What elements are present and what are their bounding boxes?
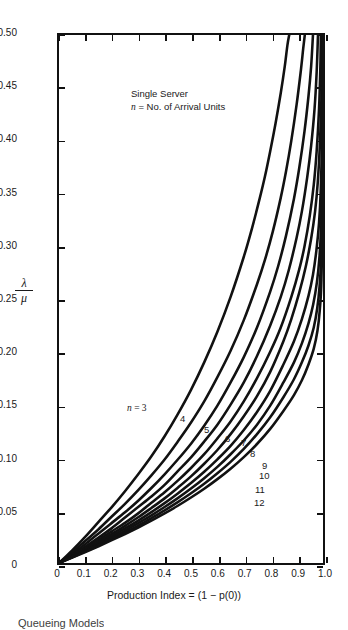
y-tick-label: 0.50 (0, 28, 17, 38)
y-tick-label: 0.40 (0, 134, 17, 144)
x-tick-mark (299, 557, 301, 563)
x-tick-mark (85, 557, 87, 563)
x-tick-mark (219, 557, 221, 563)
y-tick-label: 0.45 (0, 81, 17, 91)
x-tick-mark (246, 35, 248, 41)
x-tick-mark (192, 35, 194, 41)
curve-label-11: 11 (255, 485, 265, 495)
y-tick-mark (59, 141, 65, 143)
curve-label-6: 6 (225, 434, 230, 444)
x-tick-mark (139, 35, 141, 41)
y-tick-label: 0.25 (0, 294, 17, 304)
x-tick-mark (273, 557, 275, 563)
x-tick-mark (58, 557, 60, 563)
x-tick-label: 0.1 (71, 569, 97, 579)
y-tick-mark (317, 141, 323, 143)
y-tick-mark (317, 247, 323, 249)
x-tick-label: 0.6 (205, 569, 231, 579)
y-tick-mark (317, 353, 323, 355)
plot-area: Single Server n = No. of Arrival Units (57, 33, 325, 565)
y-tick-label: 0.20 (0, 347, 17, 357)
curve-label-12: 12 (254, 498, 265, 508)
y-tick-mark (59, 407, 65, 409)
curve-label-8: 8 (250, 449, 255, 459)
curve-label-7: 7 (241, 438, 246, 448)
x-tick-mark (192, 557, 194, 563)
y-tick-mark (59, 300, 65, 302)
annotation-line-2: n = No. of Arrival Units (131, 100, 225, 114)
x-tick-label: 0.4 (151, 569, 177, 579)
y-tick-mark (59, 194, 65, 196)
curve-label-5: 5 (204, 425, 209, 435)
x-tick-mark (326, 557, 328, 563)
x-tick-label: 0.9 (285, 569, 311, 579)
x-tick-label: 0.2 (98, 569, 124, 579)
y-tick-mark (317, 194, 323, 196)
x-tick-mark (58, 35, 60, 41)
x-tick-label: 0.7 (232, 569, 258, 579)
y-tick-mark (317, 300, 323, 302)
plot-annotation: Single Server n = No. of Arrival Units (131, 87, 225, 114)
y-tick-label: 0 (11, 560, 17, 570)
x-tick-mark (219, 35, 221, 41)
y-tick-mark (59, 513, 65, 515)
annotation-line-2-rest: = No. of Arrival Units (136, 101, 226, 112)
y-tick-mark (59, 34, 65, 36)
curve-label-n-3: n = 3 (127, 403, 147, 413)
annotation-line-1: Single Server (131, 87, 225, 100)
x-tick-mark (112, 35, 114, 41)
x-tick-mark (112, 557, 114, 563)
x-tick-label: 0.8 (258, 569, 284, 579)
x-tick-mark (165, 557, 167, 563)
x-tick-mark (326, 35, 328, 41)
y-tick-mark (317, 407, 323, 409)
curve-label-10: 10 (259, 471, 270, 481)
x-tick-label: 0.5 (178, 569, 204, 579)
x-tick-mark (139, 557, 141, 563)
x-tick-mark (165, 35, 167, 41)
curves-svg (59, 35, 323, 563)
figure-caption: Queueing Models (18, 617, 104, 630)
curve-label-4: 4 (180, 414, 185, 424)
x-tick-mark (299, 35, 301, 41)
y-tick-mark (59, 353, 65, 355)
y-tick-label: 0.15 (0, 400, 17, 410)
x-tick-label: 0 (44, 569, 70, 579)
x-tick-label: 0.3 (124, 569, 150, 579)
y-tick-label: 0.10 (0, 454, 17, 464)
figure-container: λ μ Single Server n = No. of Arrival Uni… (0, 0, 348, 630)
curve-n-5 (59, 35, 313, 563)
y-axis-title-numerator: λ (13, 277, 35, 290)
x-tick-label: 1.0 (312, 569, 338, 579)
y-tick-label: 0.30 (0, 241, 17, 251)
x-axis-title: Production Index = (1 − p(0)) (0, 589, 348, 601)
x-tick-mark (85, 35, 87, 41)
y-tick-mark (317, 460, 323, 462)
y-tick-mark (59, 87, 65, 89)
y-tick-label: 0.35 (0, 188, 17, 198)
y-tick-mark (59, 460, 65, 462)
y-tick-mark (317, 87, 323, 89)
y-tick-mark (59, 247, 65, 249)
curve-n-9 (59, 35, 322, 563)
x-tick-mark (273, 35, 275, 41)
y-tick-label: 0.05 (0, 507, 17, 517)
x-tick-mark (246, 557, 248, 563)
y-tick-mark (317, 513, 323, 515)
y-tick-mark (317, 34, 323, 36)
